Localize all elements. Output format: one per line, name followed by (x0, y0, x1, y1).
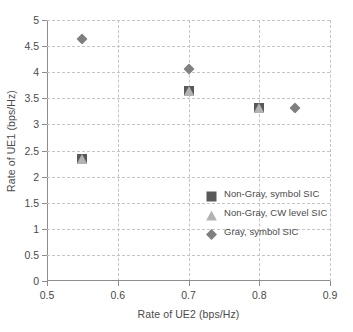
legend-item: Non-Gray, symbol SIC (206, 184, 346, 203)
y-tick-label: 1.5 (24, 197, 39, 209)
chart-legend: Non-Gray, symbol SICNon-Gray, CW level S… (206, 184, 346, 241)
triangle-marker-icon (206, 207, 217, 218)
legend-item-label: Gray, symbol SIC (224, 226, 299, 237)
y-tick-mark (42, 255, 47, 256)
legend-item-label: Non-Gray, symbol SIC (224, 188, 319, 199)
data-point-diamond (183, 60, 194, 71)
data-point-triangle (254, 99, 265, 110)
y-tick-mark (42, 124, 47, 125)
diamond-marker-icon (206, 226, 217, 237)
y-tick-label: 0 (33, 275, 39, 287)
y-tick-mark (42, 72, 47, 73)
square-marker-icon (206, 188, 217, 199)
y-tick-label: 4.5 (24, 40, 39, 52)
y-tick-label: 2 (33, 171, 39, 183)
y-tick-label: 1 (33, 223, 39, 235)
legend-item: Gray, symbol SIC (206, 222, 346, 241)
y-tick-mark (42, 98, 47, 99)
data-point-triangle (77, 150, 88, 161)
x-tick-label: 0.6 (110, 289, 125, 301)
scatter-chart: Rate of UE1 (bps/Hz) 00.511.522.533.544.… (0, 0, 353, 332)
x-axis-title: Rate of UE2 (bps/Hz) (47, 308, 330, 320)
y-tick-mark (42, 229, 47, 230)
data-point-diamond (77, 30, 88, 41)
x-tick-mark (330, 281, 331, 286)
gridline-vertical (118, 20, 119, 281)
y-tick-label: 3.5 (24, 92, 39, 104)
y-tick-mark (42, 46, 47, 47)
y-axis-title: Rate of UE1 (bps/Hz) (0, 0, 22, 281)
gridline-vertical (259, 20, 260, 281)
gridline-vertical (189, 20, 190, 281)
y-tick-mark (42, 151, 47, 152)
y-tick-label: 4 (33, 66, 39, 78)
x-tick-label: 0.7 (181, 289, 196, 301)
x-tick-label: 0.9 (323, 289, 338, 301)
x-tick-mark (259, 281, 260, 286)
legend-item-label: Non-Gray, CW level SIC (224, 207, 327, 218)
x-tick-label: 0.8 (252, 289, 267, 301)
legend-item: Non-Gray, CW level SIC (206, 203, 346, 222)
plot-area: 00.511.522.533.544.55 0.50.60.70.80.9 (47, 20, 330, 281)
y-tick-label: 3 (33, 118, 39, 130)
y-tick-mark (42, 20, 47, 21)
x-tick-mark (189, 281, 190, 286)
y-tick-label: 0.5 (24, 249, 39, 261)
y-tick-label: 2.5 (24, 145, 39, 157)
y-tick-mark (42, 203, 47, 204)
data-point-triangle (183, 82, 194, 93)
x-tick-mark (47, 281, 48, 286)
x-tick-mark (118, 281, 119, 286)
y-axis-title-text: Rate of UE1 (bps/Hz) (5, 90, 17, 192)
y-tick-label: 5 (33, 14, 39, 26)
gridline-vertical (330, 20, 331, 281)
y-tick-mark (42, 177, 47, 178)
x-tick-label: 0.5 (40, 289, 55, 301)
data-point-diamond (289, 99, 300, 110)
